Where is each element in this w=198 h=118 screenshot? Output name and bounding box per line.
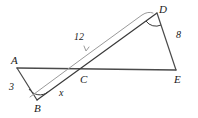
- measure-bracket-12: [30, 12, 153, 97]
- segment-BD: [37, 13, 157, 100]
- measure-tick-12: [84, 46, 89, 51]
- vertex-label-E: E: [174, 74, 181, 85]
- side-length-label-BC: x: [59, 88, 63, 98]
- segment-DE: [157, 13, 176, 70]
- vertex-label-D: D: [159, 4, 167, 15]
- side-length-label-AB: 3: [9, 82, 14, 92]
- segment-AE: [17, 68, 176, 70]
- vertex-label-A: A: [11, 55, 18, 66]
- angle-arc-D: [146, 21, 161, 26]
- angle-arc-B: [29, 89, 48, 95]
- vertex-label-C: C: [80, 74, 87, 85]
- side-length-label-BD: 12: [74, 32, 84, 42]
- geometry-canvas: [0, 0, 198, 118]
- geometry-figure: A B C D E 3 x 12 8: [0, 0, 198, 118]
- vertex-label-B: B: [34, 103, 41, 114]
- side-length-label-DE: 8: [176, 30, 181, 40]
- segment-AB: [17, 68, 37, 100]
